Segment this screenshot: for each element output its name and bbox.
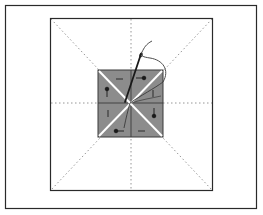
quilt-block-diagram — [0, 0, 263, 215]
folded-fabric-square — [98, 70, 163, 137]
